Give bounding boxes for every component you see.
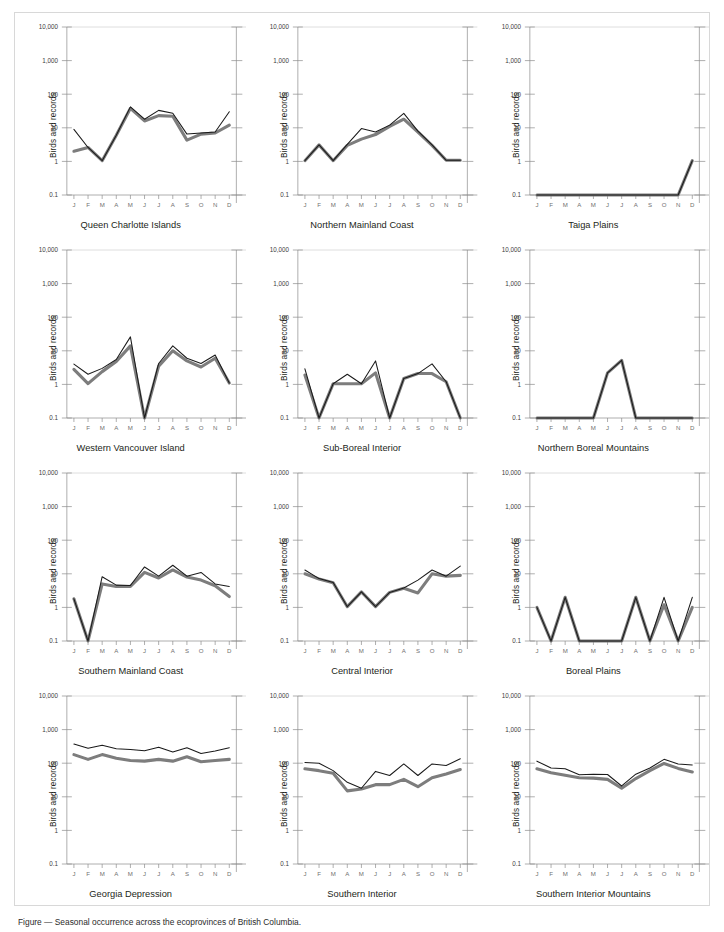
- y-tick-label: 1: [286, 827, 290, 834]
- y-tick-label: 10,000: [501, 692, 521, 699]
- x-tick-label: J: [606, 424, 609, 431]
- y-tick-label: 1,000: [274, 57, 290, 64]
- y-tick-label: 1: [517, 827, 521, 834]
- y-tick-label: 0.1: [280, 860, 289, 867]
- x-tick-label: J: [304, 201, 307, 208]
- series-line-records: [537, 360, 692, 418]
- y-tick-label: 0.1: [49, 860, 58, 867]
- panel-title: Central Interior: [246, 666, 477, 676]
- panel-title: Queen Charlotte Islands: [15, 220, 246, 230]
- x-tick-label: A: [346, 424, 351, 431]
- x-tick-label: J: [374, 647, 377, 654]
- x-tick-label: S: [416, 870, 420, 877]
- x-tick-label: N: [444, 201, 448, 208]
- x-tick-label: D: [227, 424, 232, 431]
- y-tick-label: 0.1: [512, 637, 521, 644]
- series-line-birds: [74, 755, 229, 762]
- x-tick-label: N: [444, 424, 448, 431]
- x-tick-label: J: [304, 424, 307, 431]
- x-tick-label: J: [388, 647, 391, 654]
- x-tick-label: N: [676, 870, 680, 877]
- panel-title: Southern Interior: [246, 889, 477, 899]
- x-tick-label: O: [430, 647, 435, 654]
- x-tick-label: J: [374, 870, 377, 877]
- x-tick-label: S: [185, 424, 189, 431]
- chart-panel: 10,0001,0001001010.1JFMAMJJASONDBirds an…: [15, 459, 246, 682]
- x-tick-label: A: [633, 647, 638, 654]
- series-line-records: [74, 744, 229, 753]
- x-tick-label: D: [227, 201, 232, 208]
- x-tick-label: J: [620, 424, 623, 431]
- panel-title: Southern Interior Mountains: [478, 889, 709, 899]
- x-tick-label: J: [535, 424, 538, 431]
- x-tick-label: M: [591, 201, 596, 208]
- x-tick-label: J: [157, 870, 160, 877]
- y-tick-label: 1: [286, 381, 290, 388]
- y-tick-label: 10,000: [39, 246, 59, 253]
- x-tick-label: F: [86, 870, 90, 877]
- x-tick-label: S: [648, 647, 652, 654]
- chart-panel: 10,0001,0001001010.1JFMAMJJASONDBirds an…: [478, 682, 709, 905]
- y-tick-label: 1,000: [42, 726, 58, 733]
- x-tick-label: S: [185, 647, 189, 654]
- y-tick-label: 1: [517, 604, 521, 611]
- y-axis-label: Birds and records: [512, 761, 521, 827]
- x-tick-label: N: [444, 870, 448, 877]
- x-tick-label: J: [157, 647, 160, 654]
- y-axis-label: Birds and records: [512, 538, 521, 604]
- y-axis-label: Birds and records: [49, 315, 58, 381]
- panel-title: Sub-Boreal Interior: [246, 443, 477, 453]
- y-tick-label: 1: [54, 381, 58, 388]
- x-tick-label: O: [661, 201, 666, 208]
- x-tick-label: D: [458, 870, 463, 877]
- x-tick-label: M: [100, 647, 105, 654]
- x-tick-label: F: [318, 870, 322, 877]
- x-tick-label: J: [606, 201, 609, 208]
- x-tick-label: S: [648, 870, 652, 877]
- chart-panel: 10,0001,0001001010.1JFMAMJJASONDBirds an…: [15, 682, 246, 905]
- x-tick-label: D: [690, 424, 695, 431]
- x-tick-label: J: [157, 201, 160, 208]
- x-tick-label: F: [549, 870, 553, 877]
- x-tick-label: M: [100, 870, 105, 877]
- series-line-birds: [537, 360, 692, 418]
- x-tick-label: M: [562, 870, 567, 877]
- x-tick-label: A: [114, 424, 119, 431]
- x-tick-label: J: [374, 424, 377, 431]
- x-tick-label: S: [416, 201, 420, 208]
- x-tick-label: M: [331, 647, 336, 654]
- x-tick-label: M: [128, 870, 133, 877]
- x-tick-label: F: [318, 647, 322, 654]
- x-tick-label: M: [591, 870, 596, 877]
- y-tick-label: 10,000: [270, 23, 290, 30]
- y-tick-label: 10,000: [270, 469, 290, 476]
- x-tick-label: F: [549, 647, 553, 654]
- y-tick-label: 10,000: [270, 246, 290, 253]
- panel-title: Northern Mainland Coast: [246, 220, 477, 230]
- chart-panel: 10,0001,0001001010.1JFMAMJJASONDBirds an…: [15, 13, 246, 236]
- x-tick-label: M: [331, 870, 336, 877]
- x-tick-label: A: [171, 647, 176, 654]
- x-tick-label: J: [304, 647, 307, 654]
- x-tick-label: J: [143, 201, 146, 208]
- chart-panel: 10,0001,0001001010.1JFMAMJJASONDBirds an…: [478, 13, 709, 236]
- x-tick-label: M: [100, 424, 105, 431]
- x-tick-label: O: [199, 647, 204, 654]
- x-tick-label: A: [633, 424, 638, 431]
- panel-title: Georgia Depression: [15, 889, 246, 899]
- x-tick-label: J: [304, 870, 307, 877]
- x-tick-label: N: [213, 201, 217, 208]
- x-tick-label: M: [331, 201, 336, 208]
- chart-panel: 10,0001,0001001010.1JFMAMJJASONDBirds an…: [246, 459, 477, 682]
- y-tick-label: 10,000: [501, 23, 521, 30]
- y-axis-label: Birds and records: [281, 761, 290, 827]
- series-line-birds: [537, 763, 692, 788]
- y-tick-label: 1,000: [505, 726, 521, 733]
- x-tick-label: A: [171, 201, 176, 208]
- x-tick-label: D: [458, 424, 463, 431]
- panel-title: Northern Boreal Mountains: [478, 443, 709, 453]
- y-tick-label: 1: [286, 604, 290, 611]
- series-line-birds: [537, 597, 692, 641]
- chart-panel: 10,0001,0001001010.1JFMAMJJASONDBirds an…: [478, 459, 709, 682]
- x-tick-label: D: [458, 201, 463, 208]
